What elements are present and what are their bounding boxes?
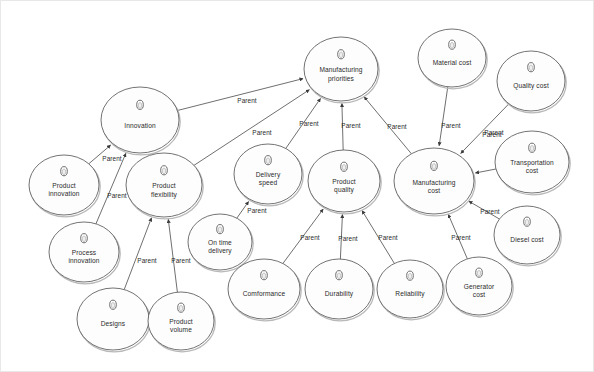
node-handle-oval-icon xyxy=(265,156,272,165)
node-handle-oval-icon xyxy=(449,40,456,49)
node-quality-cost[interactable] xyxy=(497,51,566,113)
edge-generator-cost-to-manufacturing-cost xyxy=(448,214,467,258)
node-handle-oval-icon xyxy=(529,143,536,152)
node-handle-oval-icon xyxy=(407,271,414,280)
node-durability[interactable] xyxy=(305,259,374,321)
edge-product-quality-to-manufacturing-priorities xyxy=(342,103,343,150)
node-manufacturing-priorities[interactable] xyxy=(304,37,379,103)
node-product-innovation[interactable] xyxy=(29,155,100,217)
node-handle-oval-icon xyxy=(261,271,268,280)
node-handle-oval-icon xyxy=(528,63,535,72)
node-process-innovation[interactable] xyxy=(49,222,120,284)
edge-designs-to-product-flexibility xyxy=(124,218,151,290)
node-handle-oval-icon xyxy=(178,303,185,312)
node-diesel-cost[interactable] xyxy=(494,206,561,266)
node-product-volume[interactable] xyxy=(148,292,215,352)
node-comformance[interactable] xyxy=(228,259,301,321)
node-handle-oval-icon xyxy=(137,100,144,109)
node-product-flexibility[interactable] xyxy=(126,153,203,219)
graph-svg xyxy=(1,1,594,372)
edge-diesel-cost-to-manufacturing-cost xyxy=(469,201,500,219)
edge-innovation-to-manufacturing-priorities xyxy=(177,79,303,111)
node-handle-oval-icon xyxy=(338,50,345,59)
node-handle-oval-icon xyxy=(217,225,224,234)
node-material-cost[interactable] xyxy=(418,29,487,89)
node-delivery-speed[interactable] xyxy=(234,144,303,206)
edge-product-volume-to-product-flexibility xyxy=(168,219,177,292)
edge-material-cost-to-manufacturing-cost xyxy=(439,87,448,146)
node-generator-cost[interactable] xyxy=(446,257,513,317)
node-designs[interactable] xyxy=(77,288,150,352)
node-manufacturing-cost[interactable] xyxy=(394,148,475,216)
node-innovation[interactable] xyxy=(101,87,180,155)
node-product-quality[interactable] xyxy=(308,150,381,214)
node-handle-oval-icon xyxy=(431,161,438,170)
node-handle-oval-icon xyxy=(336,271,343,280)
node-handle-oval-icon xyxy=(341,162,348,171)
node-handle-oval-icon xyxy=(476,268,483,277)
edge-on-time-delivery-to-delivery-speed xyxy=(237,202,249,219)
edge-comformance-to-product-quality xyxy=(283,209,323,263)
edge-reliability-to-product-quality xyxy=(362,211,394,264)
node-on-time-delivery[interactable] xyxy=(188,214,253,272)
edge-durability-to-product-quality xyxy=(340,214,342,259)
node-handle-oval-icon xyxy=(161,166,168,175)
node-handle-oval-icon xyxy=(61,167,68,176)
node-handle-oval-icon xyxy=(110,300,117,309)
node-handle-oval-icon xyxy=(81,234,88,243)
diagram-canvas: ParentParentParentParentParentParentPare… xyxy=(0,0,594,372)
edge-product-innovation-to-innovation xyxy=(89,145,111,164)
edge-delivery-speed-to-manufacturing-priorities xyxy=(286,98,321,148)
edge-manufacturing-cost-to-manufacturing-priorities xyxy=(364,97,411,154)
node-transportation-cost[interactable] xyxy=(495,131,570,195)
node-handle-oval-icon xyxy=(524,217,531,226)
edge-transportation-cost-to-manufacturing-cost xyxy=(475,169,496,173)
node-reliability[interactable] xyxy=(377,260,444,320)
